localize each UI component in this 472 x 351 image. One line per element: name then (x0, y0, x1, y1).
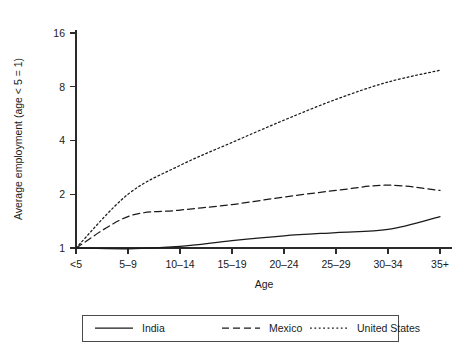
y-tick-label: 2 (59, 188, 65, 200)
series-line-united-states (76, 70, 440, 248)
x-tick-label: <5 (70, 258, 82, 270)
x-axis-title: Age (255, 278, 274, 290)
x-tick-label: 20–24 (269, 258, 298, 270)
x-tick-label: 15–19 (217, 258, 246, 270)
y-axis-title: Average employment (age < 5 = 1) (12, 58, 24, 220)
x-tick-label: 25–29 (321, 258, 350, 270)
y-tick-label: 16 (53, 27, 65, 39)
employment-by-age-line-chart: 124816 <55–910–1415–1920–2425–2930–3435+… (0, 0, 472, 351)
legend-label-mexico: Mexico (269, 322, 302, 334)
y-tick-label: 4 (59, 134, 65, 146)
y-axis-tick-labels: 124816 (53, 27, 65, 254)
legend-label-india: India (142, 322, 165, 334)
y-tick-label: 1 (59, 242, 65, 254)
legend-label-united-states: United States (357, 322, 420, 334)
x-tick-label: 30–34 (373, 258, 402, 270)
x-tick-label: 35+ (431, 258, 449, 270)
y-axis-ticks (70, 33, 76, 248)
x-axis: <55–910–1415–1920–2425–2930–3435+ (70, 248, 452, 270)
y-axis: 124816 (53, 27, 76, 254)
chart-legend: IndiaMexicoUnited States (82, 315, 420, 341)
y-tick-label: 8 (59, 81, 65, 93)
series-lines (76, 70, 440, 249)
series-line-india (76, 217, 440, 249)
x-tick-label: 10–14 (165, 258, 194, 270)
x-axis-tick-labels: <55–910–1415–1920–2425–2930–3435+ (70, 258, 449, 270)
x-tick-label: 5–9 (119, 258, 137, 270)
chart-figure: 124816 <55–910–1415–1920–2425–2930–3435+… (0, 0, 472, 351)
